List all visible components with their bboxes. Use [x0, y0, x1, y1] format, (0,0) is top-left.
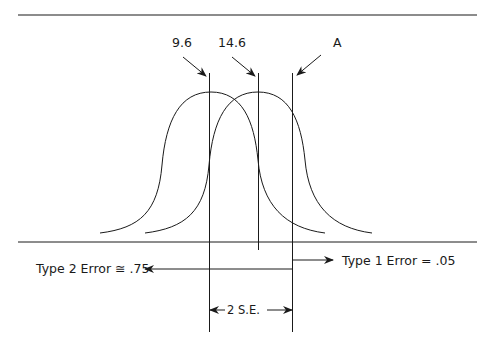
arrow-14-6: [232, 57, 255, 76]
label-14-6: 14.6: [218, 35, 246, 50]
label-a: A: [333, 35, 342, 50]
power-diagram: 9.6 14.6 A Type 1 Error = .05 Type 2 Err…: [0, 0, 477, 341]
type1-error-label: Type 1 Error = .05: [341, 253, 455, 268]
type2-error-label: Type 2 Error ≅ .75: [35, 261, 149, 276]
null-distribution-curve: [100, 92, 325, 233]
label-9-6: 9.6: [172, 35, 192, 50]
arrow-a: [297, 55, 321, 75]
arrow-9-6: [183, 57, 206, 76]
se-label: 2 S.E.: [227, 303, 260, 317]
